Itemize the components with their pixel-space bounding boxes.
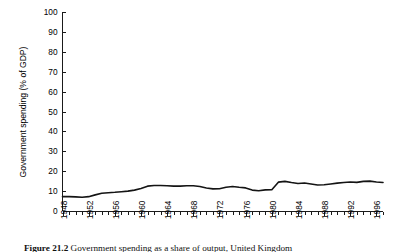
- x-tick-label-1996: 1996: [372, 200, 382, 219]
- x-tick-label-1992: 1992: [346, 200, 356, 219]
- y-tick-label-40: 40: [48, 126, 58, 136]
- x-tick-label-1984: 1984: [294, 200, 304, 219]
- y-tick-label-50: 50: [48, 107, 58, 117]
- x-tick-label-1968: 1968: [189, 200, 199, 219]
- x-tick-label-1980: 1980: [268, 200, 278, 219]
- caption-number: 21.2: [52, 243, 68, 252]
- y-axis-title: Government spending (% of GDP): [18, 46, 28, 177]
- y-tick-label-90: 90: [48, 27, 58, 37]
- y-tick-label-0: 0: [53, 206, 58, 216]
- y-tick-label-10: 10: [48, 186, 58, 196]
- x-tick-label-1976: 1976: [242, 200, 252, 219]
- caption-label: Figure: [24, 243, 50, 252]
- figure-caption-text: Figure 21.2 Government spending as a sha…: [24, 243, 394, 252]
- figure-container: 0102030405060708090100 19481952195619601…: [0, 0, 397, 252]
- line-chart: 0102030405060708090100 19481952195619601…: [0, 0, 397, 243]
- y-tick-label-100: 100: [44, 7, 58, 17]
- caption-body: Government spending as a share of output…: [71, 243, 293, 252]
- y-tick-label-80: 80: [48, 47, 58, 57]
- x-tick-label-1972: 1972: [215, 200, 225, 219]
- figure-caption: Figure 21.2 Government spending as a sha…: [0, 243, 397, 252]
- y-tick-label-70: 70: [48, 67, 58, 77]
- y-tick-label-20: 20: [48, 166, 58, 176]
- x-tick-label-1988: 1988: [320, 200, 330, 219]
- y-tick-label-30: 30: [48, 146, 58, 156]
- x-tick-label-1952: 1952: [85, 200, 95, 219]
- x-tick-label-1948: 1948: [59, 200, 69, 219]
- x-tick-label-1960: 1960: [137, 200, 147, 219]
- x-tick-label-1964: 1964: [163, 200, 173, 219]
- x-tick-label-1956: 1956: [111, 200, 121, 219]
- y-tick-label-60: 60: [48, 87, 58, 97]
